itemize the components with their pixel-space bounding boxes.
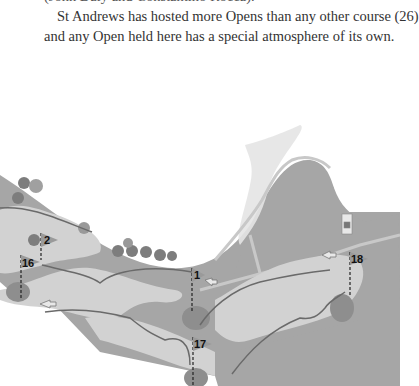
green-18 <box>330 294 354 322</box>
green-16 <box>6 282 30 302</box>
svg-text:16: 16 <box>22 257 34 269</box>
svg-text:1: 1 <box>194 269 200 281</box>
svg-text:18: 18 <box>351 253 363 265</box>
clubhouse <box>342 214 352 234</box>
svg-text:2: 2 <box>44 234 50 246</box>
svg-text:17: 17 <box>194 338 206 350</box>
